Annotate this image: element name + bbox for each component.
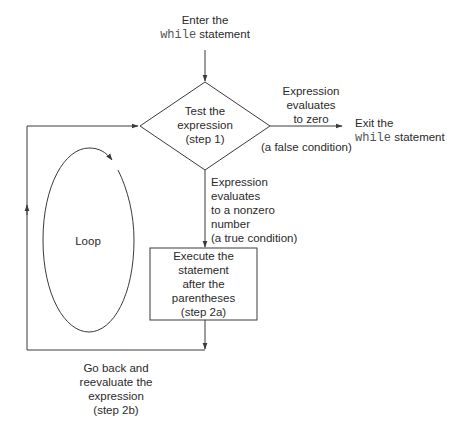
exit-line2-rest: statement (391, 131, 445, 143)
process-line: statement (150, 263, 257, 277)
true-branch-line: to a nonzero (211, 203, 331, 217)
process-label: Execute the statement after the parenthe… (150, 249, 257, 319)
false-branch-line: evaluates (272, 98, 350, 112)
return-line: (step 2b) (56, 403, 176, 417)
exit-line2: while statement (355, 130, 474, 145)
return-label: Go back and reevaluate the expression (s… (56, 361, 176, 417)
entry-code: while (160, 28, 196, 42)
process-line: (step 2a) (150, 305, 257, 319)
exit-label: Exit the while statement (355, 116, 474, 145)
return-line: expression (56, 389, 176, 403)
decision-line: Test the (160, 104, 250, 118)
true-branch-line: Expression (211, 175, 331, 189)
entry-line2: while statement (140, 27, 270, 42)
decision-line: (step 1) (160, 132, 250, 146)
process-line: parentheses (150, 291, 257, 305)
true-branch-label: Expression evaluates to a nonzero number… (211, 175, 331, 245)
process-line: Execute the (150, 249, 257, 263)
decision-label: Test the expression (step 1) (160, 104, 250, 146)
exit-code: while (355, 131, 391, 145)
decision-line: expression (160, 118, 250, 132)
false-branch-line: Expression (272, 84, 350, 98)
entry-line2-rest: statement (196, 28, 250, 40)
process-line: after the (150, 277, 257, 291)
exit-line1: Exit the (355, 116, 474, 130)
false-branch-line: to zero (272, 112, 350, 126)
loop-label: Loop (63, 234, 113, 248)
return-line: reevaluate the (56, 375, 176, 389)
false-condition-label: (a false condition) (261, 140, 352, 154)
true-branch-line: evaluates (211, 189, 331, 203)
true-branch-line: (a true condition) (211, 231, 331, 245)
true-branch-line: number (211, 217, 331, 231)
false-branch-label: Expression evaluates to zero (272, 84, 350, 126)
entry-line1: Enter the (140, 13, 270, 27)
entry-label: Enter the while statement (140, 13, 270, 42)
return-line: Go back and (56, 361, 176, 375)
